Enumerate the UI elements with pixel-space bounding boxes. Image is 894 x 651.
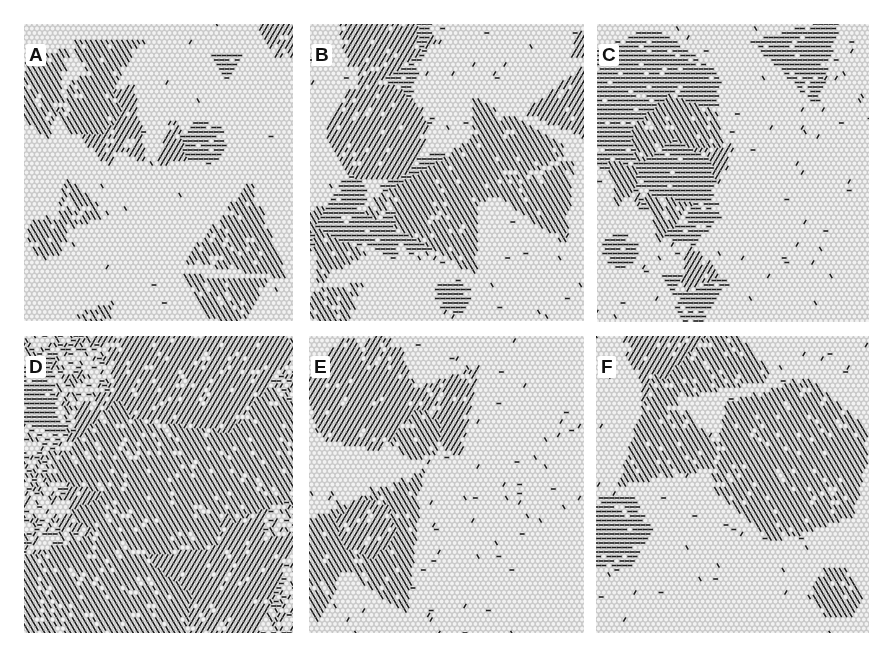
panel-label-b: B — [312, 44, 332, 66]
panel-label-e: E — [311, 356, 330, 378]
panel-label-d: D — [26, 356, 46, 378]
lattice-image-f — [596, 336, 869, 633]
lattice-image-e — [309, 336, 584, 633]
lattice-image-c — [597, 24, 869, 322]
panel-c: C — [597, 24, 869, 322]
panel-label-c: C — [599, 44, 619, 66]
lattice-image-a — [24, 24, 293, 321]
panel-f: F — [596, 336, 869, 633]
panel-label-a: A — [26, 44, 46, 66]
panel-e: E — [309, 336, 584, 633]
lattice-image-d — [24, 336, 293, 633]
panel-label-f: F — [598, 356, 616, 378]
panel-b: B — [310, 24, 584, 321]
panel-a: A — [24, 24, 293, 321]
lattice-image-b — [310, 24, 584, 321]
panel-d: D — [24, 336, 293, 633]
